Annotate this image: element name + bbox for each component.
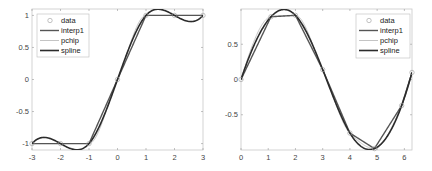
x-tick-label: 2 bbox=[293, 153, 297, 162]
x-tick-label: 0 bbox=[115, 153, 119, 162]
x-tick-label: 5 bbox=[375, 153, 379, 162]
x-tick-label: 1 bbox=[266, 153, 270, 162]
x-tick-label: 3 bbox=[321, 153, 325, 162]
x-tick-label: -1 bbox=[86, 153, 93, 162]
y-tick-label: -1 bbox=[22, 139, 29, 148]
x-tick-label: 3 bbox=[201, 153, 205, 162]
legend-label-spline: spline bbox=[380, 46, 400, 55]
x-tick-label: -3 bbox=[29, 153, 36, 162]
legend-label-pchip: pchip bbox=[61, 36, 79, 45]
x-tick-label: -2 bbox=[57, 153, 64, 162]
legend: datainterp1pchipspline bbox=[356, 14, 410, 58]
x-tick-label: 1 bbox=[144, 153, 148, 162]
left-plot: -3-2-1012310.50-0.5-1datainterp1pchipspl… bbox=[16, 9, 205, 162]
legend-label-interp1: interp1 bbox=[61, 26, 84, 35]
figure: -3-2-1012310.50-0.5-1datainterp1pchipspl… bbox=[0, 0, 432, 171]
x-tick-label: 2 bbox=[172, 153, 176, 162]
legend-label-pchip: pchip bbox=[380, 36, 398, 45]
y-tick-label: 1 bbox=[25, 11, 29, 20]
right-plot: 01234560.50-0.5datainterp1pchipspline bbox=[225, 9, 414, 162]
legend-label-data: data bbox=[61, 16, 76, 25]
legend-label-data: data bbox=[380, 16, 395, 25]
y-tick-label: 0.5 bbox=[19, 43, 29, 52]
x-tick-label: 6 bbox=[402, 153, 406, 162]
legend-label-spline: spline bbox=[61, 46, 81, 55]
legend-label-interp1: interp1 bbox=[380, 26, 403, 35]
x-tick-label: 4 bbox=[348, 153, 352, 162]
y-tick-label: -0.5 bbox=[225, 110, 238, 119]
x-tick-label: 0 bbox=[239, 153, 243, 162]
y-tick-label: 0 bbox=[25, 75, 29, 84]
legend: datainterp1pchipspline bbox=[37, 14, 89, 57]
y-tick-label: 0 bbox=[234, 75, 238, 84]
y-tick-label: -0.5 bbox=[16, 107, 29, 116]
y-tick-label: 0.5 bbox=[228, 40, 238, 49]
